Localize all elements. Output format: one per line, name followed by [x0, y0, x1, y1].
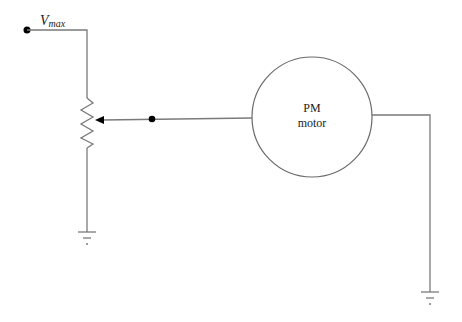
ground-left-icon [78, 232, 96, 244]
vmax-wire [27, 30, 87, 98]
motor-ground-wire [372, 115, 430, 292]
wiper-arrow-icon [95, 116, 104, 124]
junction-dot [149, 116, 156, 123]
vmax-label: Vmax [40, 13, 66, 29]
motor-label-line1: PM [303, 101, 321, 115]
circuit-diagram: Vmax PM motor [0, 0, 462, 322]
potentiometer-resistor [81, 98, 93, 148]
wiper-wire [102, 118, 252, 120]
vmax-label-sub: max [49, 18, 66, 29]
motor-label-line2: motor [298, 116, 327, 130]
ground-right-icon [421, 292, 439, 304]
